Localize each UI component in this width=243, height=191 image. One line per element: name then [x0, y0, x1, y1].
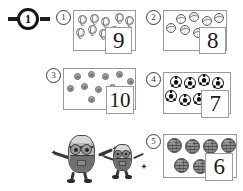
- button-dot-icon: [102, 73, 109, 80]
- minion-foot-right: [125, 175, 132, 179]
- panel-5: 5 6: [146, 134, 236, 184]
- sparkle-icon: ✦: [51, 150, 57, 157]
- panel-1: 1 9: [56, 10, 136, 54]
- minion-pocket: [119, 161, 126, 165]
- tennis-ball-icon: [90, 14, 99, 23]
- tennis-ball-icon: [78, 15, 87, 24]
- panel-2-answer-box[interactable]: 8: [199, 27, 226, 54]
- panel-2: 2 8: [146, 10, 234, 54]
- button-dot-icon: [116, 71, 123, 78]
- soccer-ball-icon: [184, 77, 196, 89]
- button-dot-icon: [81, 83, 88, 90]
- button-dot-icon: [88, 96, 95, 103]
- sparkle-icon: ✦: [100, 152, 106, 159]
- button-dot-icon: [127, 78, 134, 85]
- panel-4-number: 4: [146, 72, 161, 87]
- panel-4-answer-box[interactable]: 7: [201, 90, 229, 118]
- panel-3-number: 3: [46, 68, 61, 83]
- panel-3: 3 10: [46, 68, 138, 114]
- panel-3-answer-box[interactable]: 10: [106, 86, 134, 114]
- minion-small: ✦ ✦: [107, 142, 140, 180]
- panel-1-number: 1: [56, 10, 71, 25]
- button-dot-icon: [88, 71, 95, 78]
- sparkle-icon: ✦: [141, 164, 147, 171]
- panel-1-answer-box[interactable]: 9: [105, 27, 132, 54]
- worksheet-sheet: 1 1 9 2 8 3: [0, 0, 243, 191]
- volleyball-icon: [180, 25, 190, 35]
- minion-pocket: [77, 160, 87, 166]
- panel-5-number: 5: [146, 134, 161, 149]
- volleyball-icon: [214, 13, 224, 23]
- minion-goggle-left: [70, 144, 81, 155]
- minion-overalls: [70, 155, 94, 172]
- volleyball-icon: [189, 12, 199, 22]
- minion-foot-left: [67, 179, 75, 183]
- panel-4: 4 7: [146, 72, 234, 118]
- badge-bar-right: [40, 17, 50, 21]
- minion-goggle-right: [122, 150, 130, 158]
- soccer-ball-icon: [198, 74, 210, 86]
- panel-2-number: 2: [146, 10, 161, 25]
- tennis-ball-icon: [76, 28, 85, 37]
- volleyball-icon: [166, 23, 176, 33]
- minion-foot-left: [112, 175, 119, 179]
- volleyball-icon: [176, 14, 186, 24]
- textured-ball-icon: [167, 138, 182, 153]
- panel-5-answer-box[interactable]: 6: [205, 153, 233, 181]
- textured-ball-icon: [174, 158, 189, 173]
- minion-arm-right: [133, 153, 144, 159]
- soccer-ball-icon: [170, 76, 182, 88]
- textured-ball-icon: [185, 139, 200, 154]
- soccer-ball-icon: [212, 77, 224, 89]
- soccer-ball-icon: [165, 90, 177, 102]
- minion-overalls: [114, 158, 130, 170]
- button-dot-icon: [67, 85, 74, 92]
- badge-number: 1: [17, 8, 39, 30]
- minion-goggle-right: [81, 144, 92, 155]
- minion-foot-right: [84, 179, 92, 183]
- tennis-ball-icon: [115, 13, 124, 22]
- button-dot-icon: [95, 86, 102, 93]
- tennis-ball-icon: [125, 16, 134, 25]
- minion-hair: [71, 135, 92, 143]
- tennis-ball-icon: [88, 25, 97, 34]
- button-dot-icon: [74, 73, 81, 80]
- minion-goggle-left: [114, 150, 122, 158]
- textured-ball-icon: [221, 138, 236, 153]
- worksheet-badge: 1: [8, 8, 50, 30]
- volleyball-icon: [202, 16, 212, 26]
- soccer-ball-icon: [179, 94, 191, 106]
- tennis-ball-icon: [101, 17, 110, 26]
- textured-ball-icon: [203, 139, 218, 154]
